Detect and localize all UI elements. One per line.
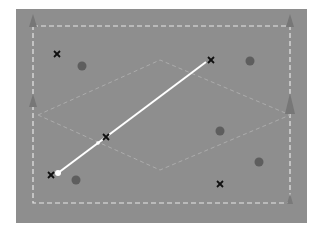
path-mid-handle[interactable]	[96, 141, 100, 145]
dot-marker[interactable]	[246, 57, 255, 66]
arrow-up-icon	[287, 193, 293, 204]
dot-marker[interactable]	[78, 62, 87, 71]
dot-marker[interactable]	[72, 176, 81, 185]
x-marker-icon[interactable]	[54, 51, 60, 57]
x-marker-icon[interactable]	[48, 172, 54, 178]
arrow-up-icon	[285, 93, 295, 114]
arrow-up-icon	[29, 94, 37, 107]
path-line[interactable]	[58, 62, 206, 173]
dot-marker[interactable]	[216, 127, 225, 136]
arrow-up-icon	[29, 14, 37, 27]
path-start-handle[interactable]	[55, 170, 61, 176]
x-marker-icon[interactable]	[208, 57, 214, 63]
board-overlay	[0, 0, 323, 237]
dashed-boundary	[33, 26, 290, 203]
diamond-outline	[38, 60, 290, 170]
dot-marker[interactable]	[255, 158, 264, 167]
x-marker-icon[interactable]	[217, 181, 223, 187]
arrow-up-icon	[286, 14, 294, 27]
x-marker-icon[interactable]	[103, 134, 109, 140]
